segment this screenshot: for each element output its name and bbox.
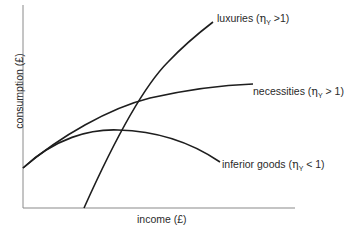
luxuries-label-text: luxuries ( (217, 12, 260, 24)
eta-subscript: Y (299, 165, 304, 172)
necessities-curve (23, 84, 253, 168)
luxuries-condition: >1) (271, 12, 289, 24)
inferior-goods-condition: < 1) (303, 158, 324, 170)
inferior-goods-label-text: inferior goods ( (222, 158, 292, 170)
necessities-label: necessities (ηY > 1) (253, 85, 344, 98)
eta-symbol: η (292, 158, 299, 171)
eta-symbol: η (311, 85, 318, 98)
eta-subscript: Y (266, 19, 271, 26)
x-axis-label: income (£) (137, 213, 187, 225)
y-axis-label: consumption (£) (13, 46, 25, 136)
inferior-goods-curve (23, 130, 220, 168)
inferior-goods-label: inferior goods (ηY < 1) (222, 158, 325, 171)
diagram-canvas (0, 0, 349, 231)
luxuries-label: luxuries (ηY >1) (217, 12, 289, 25)
necessities-condition: > 1) (323, 85, 344, 97)
necessities-label-text: necessities ( (253, 85, 311, 97)
eta-subscript: Y (318, 92, 323, 99)
